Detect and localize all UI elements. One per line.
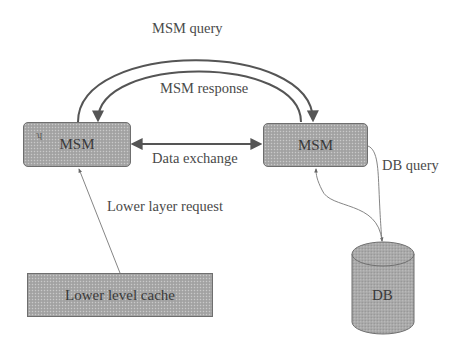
msm-response-label: MSM response bbox=[160, 80, 248, 97]
msm-node-right[interactable]: MSM bbox=[263, 123, 368, 167]
msm-node-left-label: MSM bbox=[59, 136, 94, 153]
lower-level-cache-node[interactable]: Lower level cache bbox=[27, 273, 213, 317]
msm-node-right-label: MSM bbox=[298, 137, 333, 154]
db-response-arrow bbox=[316, 169, 382, 241]
lower-layer-request-label: Lower layer request bbox=[107, 198, 223, 215]
msm-node-left[interactable]: ʮ MSM bbox=[23, 122, 131, 167]
db-query-arrow bbox=[368, 146, 382, 241]
msm-query-label: MSM query bbox=[152, 20, 223, 37]
lower-level-cache-label: Lower level cache bbox=[65, 287, 175, 304]
db-query-label: DB query bbox=[382, 157, 439, 174]
data-exchange-label: Data exchange bbox=[152, 150, 238, 167]
lower-layer-request-arrow bbox=[79, 169, 120, 273]
cursor-mark-icon: ʮ bbox=[36, 129, 42, 140]
db-node-label: DB bbox=[372, 287, 393, 304]
diagram-canvas: ʮ MSM MSM Lower level cache DB MSM query… bbox=[0, 0, 462, 352]
